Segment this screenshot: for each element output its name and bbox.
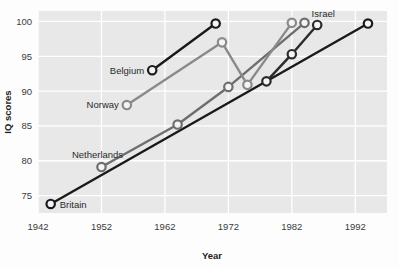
series-label-britain: Britain <box>60 199 87 210</box>
marker-netherlands-3 <box>300 19 308 27</box>
marker-israel-1 <box>288 50 296 58</box>
marker-netherlands-1 <box>173 120 181 128</box>
x-tick-1952: 1952 <box>91 221 112 232</box>
marker-norway-1 <box>218 38 226 46</box>
series-label-norway: Norway <box>87 99 119 110</box>
marker-belgium-1 <box>211 19 219 27</box>
y-tick-100: 100 <box>16 16 32 27</box>
chart-canvas: 194219521962197219821992 7580859095100 B… <box>0 0 399 267</box>
y-tick-90: 90 <box>21 86 32 97</box>
series-label-belgium: Belgium <box>110 65 144 76</box>
y-axis-title: IQ scores <box>2 90 13 133</box>
x-tick-1972: 1972 <box>218 221 239 232</box>
x-axis-title: Year <box>202 250 222 261</box>
marker-britain-1 <box>364 19 372 27</box>
y-tick-85: 85 <box>21 120 32 131</box>
marker-israel-2 <box>313 21 321 29</box>
marker-norway-3 <box>288 19 296 27</box>
x-tick-1982: 1982 <box>281 221 302 232</box>
x-axis-tick-labels: 194219521962197219821992 <box>27 221 365 232</box>
marker-britain-0 <box>46 200 54 208</box>
y-tick-80: 80 <box>21 155 32 166</box>
series-label-israel: Israel <box>312 8 335 19</box>
marker-belgium-0 <box>148 66 156 74</box>
marker-israel-0 <box>262 77 270 85</box>
x-tick-1942: 1942 <box>27 221 48 232</box>
marker-norway-0 <box>123 101 131 109</box>
y-axis-tick-labels: 7580859095100 <box>16 16 32 201</box>
marker-netherlands-0 <box>97 163 105 171</box>
marker-norway-2 <box>243 81 251 89</box>
series-label-netherlands: Netherlands <box>72 149 123 160</box>
y-tick-75: 75 <box>21 190 32 201</box>
iq-scores-line-chart: 194219521962197219821992 7580859095100 B… <box>0 0 399 267</box>
x-tick-1992: 1992 <box>345 221 366 232</box>
marker-netherlands-2 <box>224 83 232 91</box>
y-tick-95: 95 <box>21 51 32 62</box>
x-tick-1962: 1962 <box>154 221 175 232</box>
